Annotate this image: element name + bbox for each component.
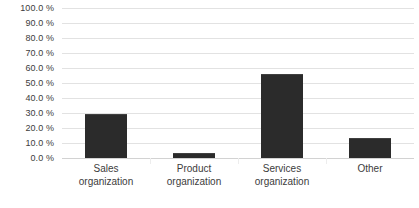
bar xyxy=(349,138,391,158)
x-axis-category-label-line: organization xyxy=(62,175,150,188)
y-axis-tick-label: 90.0 % xyxy=(25,19,54,28)
bar xyxy=(85,114,127,158)
y-axis-tick-label: 20.0 % xyxy=(25,124,54,133)
y-axis-tick-label: 50.0 % xyxy=(25,79,54,88)
y-axis-tick-label: 70.0 % xyxy=(25,49,54,58)
x-axis-category-label: Salesorganization xyxy=(62,162,150,188)
y-axis-tick-label: 40.0 % xyxy=(25,94,54,103)
x-axis-category-label-line: Sales xyxy=(62,162,150,175)
y-axis-tick-label: 10.0 % xyxy=(25,139,54,148)
x-axis-category-label-line: Services xyxy=(238,162,326,175)
x-axis: SalesorganizationProductorganizationServ… xyxy=(62,162,414,208)
x-axis-category-label: Productorganization xyxy=(150,162,238,188)
bars-layer xyxy=(62,8,414,158)
bar-chart: 0.0 %10.0 %20.0 %30.0 %40.0 %50.0 %60.0 … xyxy=(0,0,419,208)
y-axis: 0.0 %10.0 %20.0 %30.0 %40.0 %50.0 %60.0 … xyxy=(0,0,58,166)
y-axis-tick-label: 100.0 % xyxy=(20,4,54,13)
x-axis-category-label: Other xyxy=(326,162,414,175)
y-axis-tick-label: 80.0 % xyxy=(25,34,54,43)
x-axis-category-label-line: Product xyxy=(150,162,238,175)
y-axis-tick-label: 30.0 % xyxy=(25,109,54,118)
x-axis-category-label-line: organization xyxy=(150,175,238,188)
y-axis-tick-label: 0.0 % xyxy=(30,154,54,163)
x-axis-category-label-line: organization xyxy=(238,175,326,188)
x-axis-category-label: Servicesorganization xyxy=(238,162,326,188)
y-axis-tick-label: 60.0 % xyxy=(25,64,54,73)
x-axis-category-label-line: Other xyxy=(326,162,414,175)
bar xyxy=(261,74,303,158)
